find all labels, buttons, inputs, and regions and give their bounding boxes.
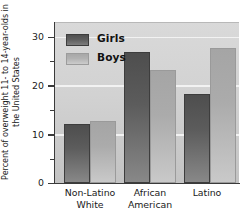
bar-girls-latino: [184, 94, 210, 183]
plot-top-border: [55, 22, 239, 23]
bar-boys-non-latino-white: [90, 121, 116, 184]
y-axis-title: Percent of overweight 11- to 14-year-old…: [0, 0, 32, 184]
x-tick-label-line1-african-american: African: [134, 187, 166, 198]
legend-swatch-boys: [66, 53, 89, 65]
y-axis-title-container: Percent of overweight 11- to 14-year-old…: [0, 0, 34, 186]
x-tick-label-latino: Latino: [172, 187, 242, 199]
y-tick-label-20: 20: [14, 80, 44, 91]
y-tick-mark-20: [48, 85, 54, 86]
bar-boys-latino: [210, 48, 236, 183]
bar-chart-figure: Percent of overweight 11- to 14-year-old…: [0, 0, 245, 222]
y-tick-label-10: 10: [14, 129, 44, 140]
legend-entry-girls: Girls: [66, 32, 162, 49]
x-tick-label-line1-latino: Latino: [193, 187, 222, 198]
x-axis-spine: [54, 183, 240, 184]
legend-label-girls: Girls: [97, 32, 125, 44]
legend-entry-boys: Boys: [66, 51, 162, 68]
y-tick-mark-30: [48, 37, 54, 38]
bar-girls-non-latino-white: [64, 124, 90, 183]
y-axis-spine: [54, 22, 55, 184]
x-tick-label-line2-african-american: American: [110, 199, 190, 211]
y-tick-label-30: 30: [14, 31, 44, 42]
y-tick-mark-minor-15: [50, 110, 55, 111]
y-tick-mark-minor-25: [50, 61, 55, 62]
y-tick-mark-10: [48, 134, 54, 135]
bar-boys-african-american: [150, 70, 176, 183]
y-tick-mark-0: [48, 183, 54, 184]
x-tick-label-line1-non-latino-white: Non-Latino: [65, 187, 116, 198]
legend-swatch-girls: [66, 34, 89, 46]
y-tick-mark-minor-5: [50, 159, 55, 160]
y-tick-label-0: 0: [14, 177, 44, 188]
bar-girls-african-american: [124, 52, 150, 183]
legend-label-boys: Boys: [97, 51, 126, 63]
chart-legend: Girls Boys: [66, 32, 162, 70]
